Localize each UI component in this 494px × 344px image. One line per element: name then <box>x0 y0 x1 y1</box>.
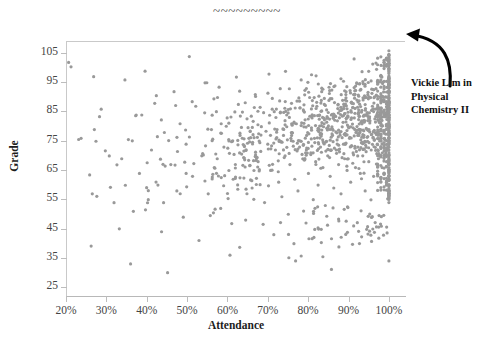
x-tick-20 <box>66 296 67 302</box>
scatter-point <box>305 154 308 157</box>
scatter-point <box>179 192 182 195</box>
scatter-point <box>379 133 382 136</box>
scatter-point <box>347 115 350 118</box>
scatter-point <box>385 114 388 117</box>
scatter-point <box>372 175 375 178</box>
scatter-point <box>252 136 255 139</box>
scatter-point <box>303 93 306 96</box>
scatter-point <box>267 147 270 150</box>
scatter-point <box>370 148 373 151</box>
scatter-point <box>304 137 307 140</box>
scatter-point <box>343 208 346 211</box>
y-tick-label-75: 75 <box>16 133 58 145</box>
annotation-label: Vickie Lim inPhysicalChemistry II <box>411 76 494 117</box>
scatter-point <box>376 173 379 176</box>
scatter-point <box>300 124 303 127</box>
y-tick-75 <box>61 141 67 142</box>
scatter-point <box>385 177 388 180</box>
scatter-point <box>251 126 254 129</box>
scatter-point <box>351 122 354 125</box>
scatter-point <box>213 167 216 170</box>
scatter-point <box>385 155 388 158</box>
scatter-point <box>379 128 382 131</box>
scatter-point <box>287 213 290 216</box>
scatter-point <box>320 99 323 102</box>
scatter-point <box>387 193 390 196</box>
x-tick-label-70: 70% <box>245 304 291 316</box>
scatter-point <box>270 169 273 172</box>
scatter-point <box>244 218 247 221</box>
scatter-point <box>327 86 330 89</box>
x-tick-label-30: 30% <box>83 304 129 316</box>
scatter-point <box>284 100 287 103</box>
scatter-point <box>228 254 231 257</box>
scatter-point <box>249 136 252 139</box>
scatter-point <box>194 105 197 108</box>
scatter-point <box>346 111 349 114</box>
scatter-point <box>376 143 379 146</box>
scatter-point <box>313 228 316 231</box>
scatter-point <box>320 121 323 124</box>
scatter-points-layer <box>67 42 405 296</box>
scatter-point <box>376 181 379 184</box>
scatter-point <box>307 117 310 120</box>
scatter-point <box>297 96 300 99</box>
scatter-point <box>248 164 251 167</box>
scatter-point <box>237 103 240 106</box>
scatter-point <box>361 96 364 99</box>
scatter-point <box>211 114 214 117</box>
scatter-point <box>282 134 285 137</box>
scatter-point <box>292 145 295 148</box>
scatter-point <box>341 125 344 128</box>
scatter-point <box>274 116 277 119</box>
scatter-point <box>268 164 271 167</box>
scatter-point <box>307 147 310 150</box>
scatter-point <box>356 132 359 135</box>
scatter-point <box>379 145 382 148</box>
scatter-point <box>348 89 351 92</box>
scatter-point <box>274 148 277 151</box>
scatter-point <box>351 243 354 246</box>
scatter-point <box>341 121 344 124</box>
scatter-point <box>374 221 377 224</box>
scatter-point <box>382 173 385 176</box>
scatter-point <box>382 90 385 93</box>
scatter-point <box>185 185 188 188</box>
scatter-point <box>379 108 382 111</box>
scatter-point <box>353 116 356 119</box>
scatter-point <box>387 54 390 57</box>
scatter-point <box>362 160 365 163</box>
scatter-point <box>317 147 320 150</box>
scatter-point <box>210 128 213 131</box>
scatter-point <box>333 147 336 150</box>
scatter-point <box>255 177 258 180</box>
scatter-point <box>230 222 233 225</box>
scatter-point <box>226 147 229 150</box>
scatter-point <box>355 150 358 153</box>
scatter-point <box>371 143 374 146</box>
scatter-point <box>385 90 388 93</box>
scatter-point <box>387 146 390 149</box>
scatter-point <box>353 112 356 115</box>
scatter-point <box>316 183 319 186</box>
scatter-point <box>77 138 80 141</box>
scatter-point <box>369 198 372 201</box>
scatter-point <box>279 87 282 90</box>
scatter-point <box>249 129 252 132</box>
scatter-point <box>359 172 362 175</box>
scatter-point <box>353 145 356 148</box>
scatter-point <box>140 113 143 116</box>
y-tick-25 <box>61 287 67 288</box>
scatter-point <box>238 134 241 137</box>
scatter-point <box>287 256 290 259</box>
scatter-point <box>330 136 333 139</box>
scatter-point <box>372 130 375 133</box>
scatter-point <box>254 151 257 154</box>
scatter-point <box>370 88 373 91</box>
scatter-point <box>345 85 348 88</box>
scatter-point <box>385 63 388 66</box>
scatter-point <box>315 101 318 104</box>
scatter-point <box>374 146 377 149</box>
scatter-point <box>203 179 206 182</box>
scatter-point <box>360 177 363 180</box>
